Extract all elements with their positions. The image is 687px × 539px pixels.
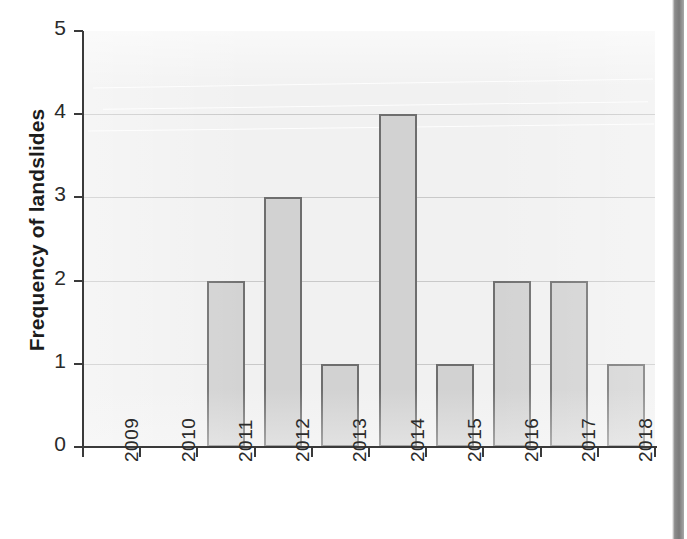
plot-area xyxy=(83,31,655,447)
x-axis-tick-label: 2009 xyxy=(121,442,143,462)
x-axis-tick-label: 2010 xyxy=(178,442,200,462)
bar xyxy=(379,114,417,447)
y-axis-tick xyxy=(74,113,83,115)
x-axis-tick-label: 2013 xyxy=(349,442,371,462)
y-axis-tick-label: 1 xyxy=(36,349,66,373)
x-axis-tick-label: 2012 xyxy=(292,442,314,462)
x-axis-tick-label: 2018 xyxy=(635,442,657,462)
y-axis-tick xyxy=(74,363,83,365)
x-axis-tick-label: 2014 xyxy=(407,442,429,462)
bar xyxy=(264,197,302,447)
y-axis-tick xyxy=(74,196,83,198)
y-axis-tick-label: 0 xyxy=(36,432,66,456)
scanned-page: Frequency of landslides 012345 200920102… xyxy=(0,0,687,539)
x-axis-tick-label: 2015 xyxy=(464,442,486,462)
y-axis-tick xyxy=(74,30,83,32)
y-axis-tick xyxy=(74,280,83,282)
gridline xyxy=(83,197,655,198)
gridline xyxy=(83,114,655,115)
x-axis-tick-label: 2017 xyxy=(578,442,600,462)
x-axis-tick-label: 2011 xyxy=(235,442,257,462)
y-axis-tick-label: 5 xyxy=(36,16,66,40)
x-axis-tick xyxy=(82,447,84,457)
y-axis-line xyxy=(82,31,84,449)
page-edge-shadow xyxy=(672,0,684,539)
y-axis-tick-label: 3 xyxy=(36,182,66,206)
x-axis-tick-label: 2016 xyxy=(521,442,543,462)
y-axis-title: Frequency of landslides xyxy=(25,85,49,375)
y-axis-tick-label: 4 xyxy=(36,99,66,123)
landslide-frequency-bar-chart: Frequency of landslides 012345 200920102… xyxy=(0,0,687,539)
y-axis-tick-label: 2 xyxy=(36,266,66,290)
